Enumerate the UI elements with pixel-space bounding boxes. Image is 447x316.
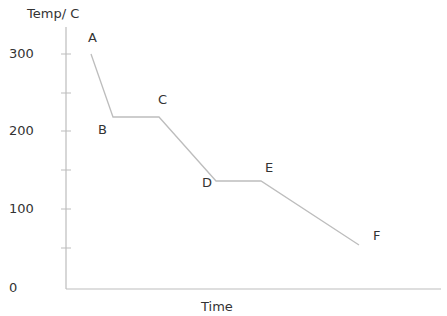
y-tick-0: 0 xyxy=(9,280,17,295)
x-axis-label: Time xyxy=(201,299,233,314)
cooling-curve-line xyxy=(91,54,359,245)
chart-canvas xyxy=(0,0,447,316)
y-tick-200: 200 xyxy=(9,123,34,138)
y-tick-100: 100 xyxy=(9,201,34,216)
point-label-e: E xyxy=(265,160,273,175)
y-axis-label: Temp/ C xyxy=(27,6,79,21)
y-tick-300: 300 xyxy=(9,46,34,61)
point-label-a: A xyxy=(88,30,97,45)
point-label-f: F xyxy=(373,228,380,243)
point-label-b: B xyxy=(98,122,107,137)
point-label-d: D xyxy=(202,175,212,190)
point-label-c: C xyxy=(158,92,167,107)
